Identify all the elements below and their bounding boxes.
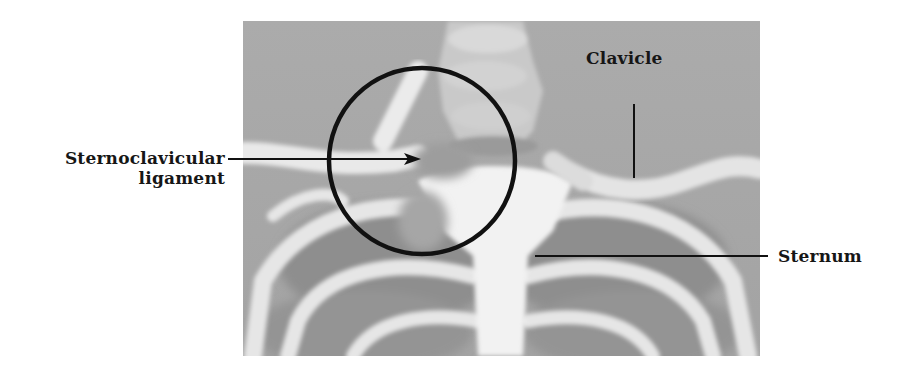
label-clavicle: Clavicle [586,48,663,68]
anatomy-figure: Sternoclavicular ligament Clavicle Stern… [0,0,911,381]
skeleton-photo [243,21,760,356]
label-sternum: Sternum [778,246,862,266]
label-sternoclavicular-ligament: Sternoclavicular ligament [65,148,225,188]
label-sternoclavicular-line1: Sternoclavicular [65,148,225,168]
label-sternoclavicular-line2: ligament [65,168,225,188]
skeleton-illustration [243,21,760,356]
